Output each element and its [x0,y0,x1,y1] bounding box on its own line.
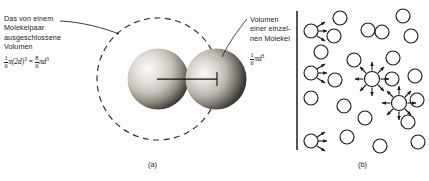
annotation-left-line-3: ausgeschlossene [4,33,61,42]
annotation-right-line-1: Volumen [250,15,279,24]
force-arrow [387,109,393,115]
annotation-right-line-3: nen Molekel [250,34,290,43]
annotation-right-text: Volumen einer einzel- nen Molekel [250,15,290,43]
formula-equals: = [29,57,33,66]
annotation-right-line-2: einer einzel- [250,24,290,33]
interior-molecule [365,72,380,87]
molecule [327,29,341,43]
excluded-volume-formula: 16π(2d)3 = 86πd3 [4,55,49,70]
molecule [396,9,410,23]
formula-exponent-two: 3 [46,56,49,62]
formula-exponent: 3 [262,53,265,59]
molecule [337,99,351,113]
molecule [375,25,389,39]
force-arrow [317,64,325,69]
single-molecule-volume-formula: 16πd3 [250,52,264,67]
force-arrow [405,109,411,115]
panel-b [297,9,425,153]
molecule [328,73,342,87]
force-arrow [360,85,366,91]
annotation-left-line-4: Volumen [4,42,33,51]
formula-exponent-one: 3 [24,56,27,62]
molecule [361,23,375,37]
force-arrow [317,132,325,137]
molecule [304,91,318,105]
interior-molecule-group-1 [355,62,389,96]
panel-a [60,18,247,140]
molecule [401,115,415,129]
molecule [340,130,354,144]
wall-molecule [304,24,318,38]
molecule [410,93,424,107]
annotation-left-line-1: Das von einem [4,14,53,23]
molecule [358,111,372,125]
wall-molecule [304,66,318,80]
molecule [386,51,400,65]
molecule [373,139,387,153]
molecule [314,45,328,59]
wall-molecule [304,134,318,148]
annotation-left-line-2: Molekelpaar [4,23,44,32]
force-arrow [387,91,393,97]
wall-molecule-group-1 [304,22,327,41]
force-arrow [317,36,325,41]
force-arrow [317,22,325,27]
force-arrow [378,85,384,91]
molecule [408,69,422,83]
formula-term: πd [254,54,261,63]
molecule [333,11,347,25]
molecule [347,53,361,67]
wall-molecule-group-2 [304,64,327,83]
wall-molecule-group-3 [304,132,327,151]
force-arrow [317,146,325,151]
molecule-diagram-figure [0,0,429,181]
molecule [411,135,425,149]
annotation-left-text: Das von einem Molekelpaar ausgeschlossen… [4,14,61,52]
force-arrow [317,78,325,83]
interior-molecule-group-2 [382,86,416,120]
force-arrow [378,67,384,73]
molecule [404,29,418,43]
leader-line-left [60,21,119,34]
caption-panel-a: (a) [148,160,157,169]
force-arrow [360,67,366,73]
caption-panel-b: (b) [358,160,367,169]
formula-term-one: π(2d) [8,57,24,66]
interior-molecule [392,96,407,111]
force-arrow [405,91,411,97]
